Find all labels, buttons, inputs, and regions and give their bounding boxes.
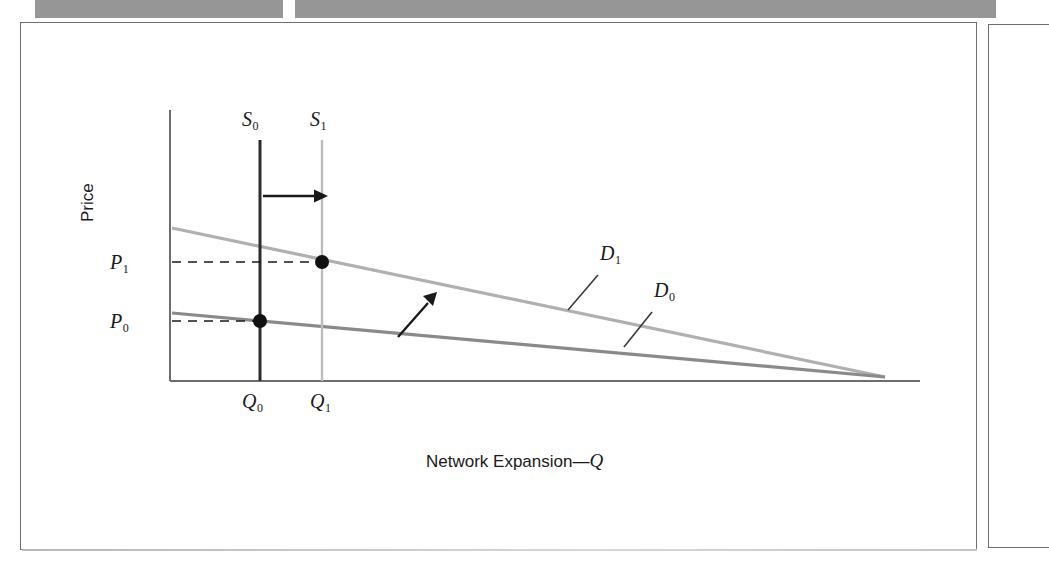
curve-label-d0-sub: 0	[669, 290, 675, 304]
supply-shift-arrow	[263, 190, 328, 203]
x-tick-label-q1: Q1	[310, 390, 330, 413]
scan-artifact-bar-left	[35, 0, 283, 18]
figure-frame-shadow	[22, 549, 977, 551]
x-tick-label-q1-base: Q	[310, 390, 324, 412]
y-tick-label-p0-sub: 0	[123, 321, 129, 335]
y-tick-label-p0: P0	[110, 310, 128, 333]
curve-label-d0: D0	[654, 279, 674, 302]
curve-label-d1-base: D	[600, 242, 614, 264]
curve-label-s0-base: S	[242, 108, 252, 130]
d1-leader-line	[568, 275, 598, 310]
x-tick-label-q0-base: Q	[242, 390, 256, 412]
x-axis-title: Network Expansion—Q	[426, 450, 603, 472]
d0-leader-line	[624, 312, 652, 347]
x-tick-label-q1-sub: 1	[325, 401, 331, 415]
y-tick-label-p1-base: P	[110, 251, 122, 273]
demand-curve-d0	[172, 313, 885, 377]
curve-label-s0-sub: 0	[253, 119, 259, 133]
adjacent-page-edge	[988, 24, 1049, 548]
curve-label-s1-sub: 1	[321, 119, 327, 133]
x-axis-title-text: Network Expansion—	[426, 452, 589, 471]
y-tick-label-p1: P1	[110, 251, 128, 274]
scan-artifact-bar-right	[295, 0, 996, 18]
equilibrium-point-e1	[315, 255, 329, 269]
supply-demand-chart: Price Network Expansion—Q S0 S1 D0 D1 Q0…	[20, 22, 975, 548]
curve-label-d1: D1	[600, 242, 620, 265]
x-axis-title-variable: Q	[589, 450, 603, 471]
x-tick-label-q0-sub: 0	[257, 401, 263, 415]
y-tick-label-p0-base: P	[110, 310, 122, 332]
y-tick-label-p1-sub: 1	[123, 262, 129, 276]
x-tick-label-q0: Q0	[242, 390, 262, 413]
curve-label-s1: S1	[310, 108, 326, 131]
y-axis-title: Price	[78, 183, 98, 222]
curve-label-d1-sub: 1	[615, 253, 621, 267]
demand-curve-d1	[172, 228, 885, 377]
curve-label-s1-base: S	[310, 108, 320, 130]
demand-shift-arrow	[398, 292, 437, 337]
curve-label-d0-base: D	[654, 279, 668, 301]
equilibrium-point-e0	[253, 314, 267, 328]
curve-label-s0: S0	[242, 108, 258, 131]
